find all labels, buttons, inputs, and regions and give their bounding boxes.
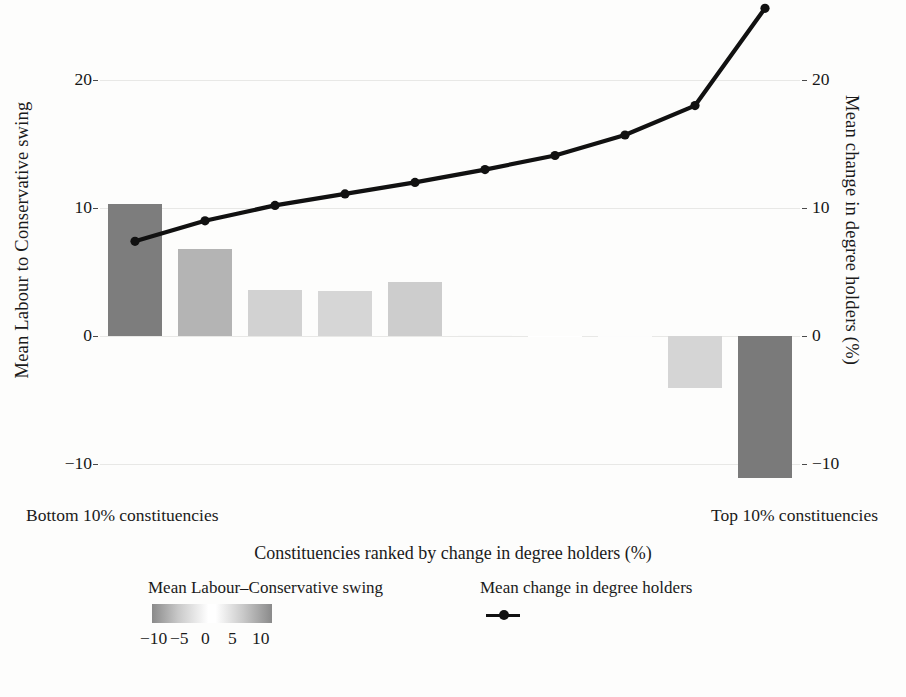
legend-colorbar-tick-label: 10 <box>252 628 270 649</box>
plot-area: 20100−10 20100−10 <box>100 0 800 480</box>
legend-colorbar-tick-label: 5 <box>228 628 237 649</box>
legend-colorbar <box>152 604 272 623</box>
legend-line-title: Mean change in degree holders <box>480 578 692 598</box>
y-axis-right-tick-mark <box>802 464 807 465</box>
line-marker <box>270 201 279 210</box>
legend-line-marker-icon <box>499 610 509 620</box>
y-axis-left-tick-label: −10 <box>65 453 98 474</box>
y-axis-left-tick-label: 0 <box>83 325 98 346</box>
y-axis-right-title: Mean change in degree holders (%) <box>841 95 862 425</box>
line-path <box>135 8 765 241</box>
legend-colorbar-tick-label: −10 <box>140 628 167 649</box>
line-marker <box>690 101 699 110</box>
legend-colorbar-tick-label: 0 <box>201 628 210 649</box>
y-axis-right-tick-mark <box>802 336 807 337</box>
y-axis-left-tick-label: 10 <box>75 197 99 218</box>
y-axis-right-tick-mark <box>802 208 807 209</box>
legend-line-key <box>486 608 520 622</box>
legend: Mean Labour–Conservative swing Mean chan… <box>0 578 906 678</box>
y-axis-right-tick-label: −10 <box>812 453 839 474</box>
line-marker <box>760 4 769 13</box>
line-marker <box>550 151 559 160</box>
line-marker <box>130 237 139 246</box>
y-axis-left-tick-label: 20 <box>75 69 99 90</box>
line-marker <box>200 216 209 225</box>
x-axis-right-end-label: Top 10% constituencies <box>711 505 878 526</box>
chart-figure: Mean Labour to Conservative swing Mean c… <box>0 0 906 697</box>
x-axis-title: Constituencies ranked by change in degre… <box>0 543 906 564</box>
line-marker <box>480 165 489 174</box>
legend-swing-title: Mean Labour–Conservative swing <box>148 578 383 598</box>
line-marker <box>340 189 349 198</box>
line-series <box>100 0 800 480</box>
line-markers <box>130 4 769 246</box>
x-axis-left-end-label: Bottom 10% constituencies <box>26 505 218 526</box>
y-axis-right-tick-label: 20 <box>812 69 830 90</box>
line-marker <box>410 178 419 187</box>
y-axis-right-tick-mark <box>802 80 807 81</box>
legend-colorbar-tick-label: −5 <box>170 628 189 649</box>
y-axis-right-tick-label: 10 <box>812 197 830 218</box>
line-marker <box>620 130 629 139</box>
y-axis-right-tick-label: 0 <box>812 325 821 346</box>
